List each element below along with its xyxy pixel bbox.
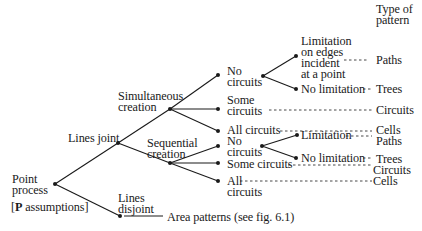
node-seq-all-circuits bbox=[216, 179, 220, 183]
label-area-patterns: Area patterns (see fig. 6.1) bbox=[167, 212, 294, 223]
node-seq-limitation bbox=[295, 133, 299, 137]
label-lines-joint: Lines joint bbox=[68, 133, 119, 144]
pattern-sim-trees: Trees bbox=[376, 84, 402, 95]
node-seq-no-limitation bbox=[294, 156, 298, 160]
label-point-process: Point process bbox=[12, 174, 48, 196]
node-seq-some-circuits bbox=[216, 161, 220, 165]
label-sim-some-circuits: Some circuits bbox=[227, 95, 262, 117]
label-seq-no-circuits: No circuits bbox=[227, 136, 262, 158]
node-sim-limitation bbox=[294, 54, 298, 58]
edge-sim-no-limitation bbox=[263, 76, 296, 89]
label-sim-no-circuits: No circuits bbox=[227, 66, 262, 88]
label-seq-all-circuits: All circuits bbox=[227, 176, 262, 198]
node-sim-some-circuits bbox=[216, 107, 220, 111]
pattern-sim-paths: Paths bbox=[376, 55, 402, 66]
edge-root-lines-joint bbox=[55, 143, 118, 184]
label-p-assumptions: [P assumptions] bbox=[11, 202, 88, 213]
label-sim-no-limitation: No limitation bbox=[301, 84, 365, 95]
pattern-seq-cells: Cells bbox=[373, 176, 398, 187]
column-header-type-of-pattern: Type of pattern bbox=[376, 4, 413, 26]
label-seq-limitation: Limitation bbox=[301, 130, 351, 141]
label-seq-some-circuits: Some circuits bbox=[227, 159, 292, 170]
node-seq-no-circuits bbox=[216, 144, 220, 148]
label-sim-limitation: Limitation on edges incident at a point bbox=[301, 36, 351, 80]
point-process-tree-diagram: Type of pattern Point process [P assumpt… bbox=[0, 0, 422, 231]
tree-edges bbox=[0, 0, 422, 231]
edge-seq-all-circuits bbox=[170, 163, 218, 181]
label-simultaneous-creation: Simultaneous creation bbox=[118, 91, 183, 113]
label-sequential-creation: Sequential creation bbox=[147, 138, 197, 160]
node-sim-no-limitation bbox=[294, 87, 298, 91]
label-lines-disjoint: Lines disjoint bbox=[118, 193, 154, 215]
node-point-process bbox=[53, 182, 57, 186]
edge-sim-limitation bbox=[263, 56, 296, 76]
node-sim-all-circuits bbox=[216, 129, 220, 133]
pattern-sim-circuits: Circuits bbox=[376, 105, 414, 116]
pattern-seq-paths: Paths bbox=[376, 136, 402, 147]
node-sim-no-circuits bbox=[216, 73, 220, 77]
node-sequential bbox=[168, 161, 172, 165]
label-seq-no-limitation: No limitation bbox=[301, 153, 365, 164]
